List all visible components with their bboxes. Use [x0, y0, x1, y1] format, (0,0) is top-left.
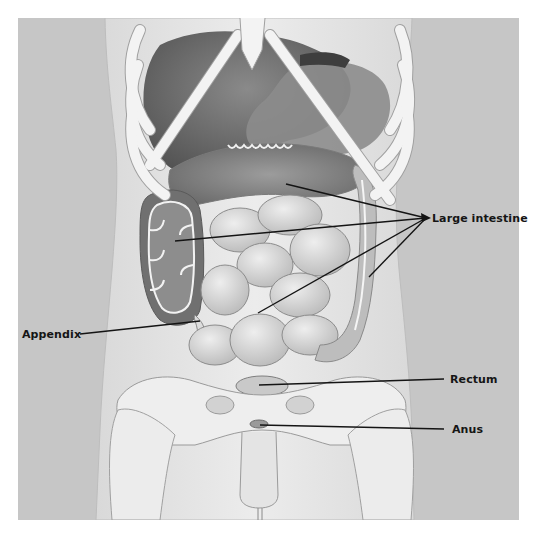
label-rectum: Rectum	[450, 373, 498, 386]
label-anus: Anus	[452, 423, 483, 436]
ascending-colon-inner	[149, 202, 194, 313]
label-large-intestine: Large intestine	[432, 212, 528, 225]
genital-outline	[240, 432, 278, 508]
abdomen-illustration	[0, 0, 536, 533]
label-appendix: Appendix	[22, 328, 81, 341]
arrowhead-icon	[421, 213, 431, 222]
anus	[250, 420, 268, 428]
